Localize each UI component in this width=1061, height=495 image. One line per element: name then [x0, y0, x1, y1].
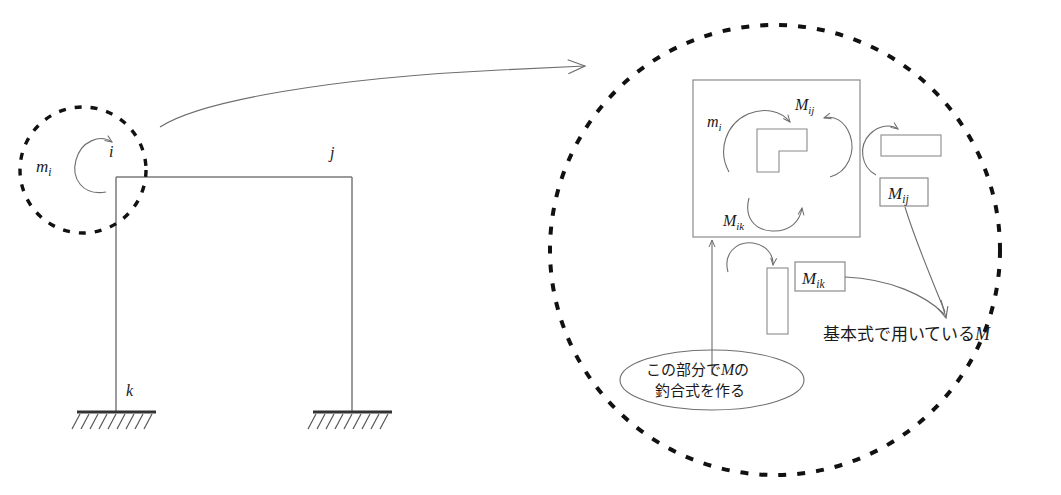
- note-arrowhead: [941, 300, 946, 318]
- engineering-diagram: mi i j k mi Mij Mik: [0, 0, 1061, 495]
- figure-canvas: mi i j k mi Mij Mik: [0, 0, 1061, 495]
- beam-stub-moment-arc: [863, 126, 898, 175]
- detail-arc-Mij: [824, 117, 852, 177]
- basic-equation-note: 基本式で用いているM: [823, 324, 991, 344]
- column-stub-moment-arc: [727, 243, 773, 272]
- beam-stub-hatched: [881, 135, 941, 156]
- label-node-i: i: [109, 143, 113, 160]
- note-curve-from-Mik: [845, 277, 944, 314]
- column-stub-hatched: [767, 268, 788, 334]
- svg-text:Mik: Mik: [801, 269, 825, 291]
- callout-line-2: 釣合式を作る: [655, 382, 745, 400]
- boxed-label-Mik: Mik: [795, 262, 845, 291]
- boxed-label-Mij: Mij: [880, 178, 928, 206]
- support-fixed-left: [72, 412, 156, 429]
- detail-connector-arrow: [160, 66, 585, 127]
- label-node-k: k: [126, 382, 134, 399]
- free-body-box: [693, 80, 860, 237]
- detail-label-Mik: Mik: [722, 212, 744, 232]
- support-fixed-right: [308, 412, 392, 429]
- svg-text:Mij: Mij: [887, 184, 909, 206]
- detail-label-mi: mi: [707, 113, 722, 133]
- detail-label-Mij: Mij: [794, 96, 814, 116]
- joint-element-L-shape: [757, 129, 807, 172]
- note-curve-from-Mij: [905, 207, 945, 312]
- detail-arc-Mik: [748, 198, 802, 231]
- applied-moment-arc: [75, 139, 112, 193]
- callout-line-1: この部分でMの: [646, 361, 749, 379]
- label-node-j: j: [328, 144, 335, 162]
- portal-frame-group: mi i j k: [20, 107, 392, 429]
- label-applied-moment: mi: [36, 157, 52, 179]
- detail-bubble-circle: [550, 25, 1000, 475]
